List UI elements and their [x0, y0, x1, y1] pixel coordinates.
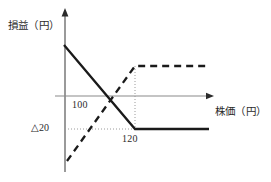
x-tick-label-100: 100 [72, 99, 88, 110]
x-axis-arrow-icon [206, 93, 214, 99]
y-tick-label-minus-20: △20 [31, 122, 49, 133]
x-tick-label-120: 120 [122, 133, 138, 144]
x-axis-label: 株価（円） [215, 103, 266, 118]
payoff-chart: 損益（円） 株価（円） 100 120 △20 [0, 0, 271, 182]
y-axis-label: 損益（円） [8, 17, 59, 32]
y-axis [62, 8, 69, 172]
y-axis-arrow-icon [62, 8, 69, 17]
series-solid-payoff [64, 45, 209, 129]
series-dashed-payoff [67, 66, 209, 161]
